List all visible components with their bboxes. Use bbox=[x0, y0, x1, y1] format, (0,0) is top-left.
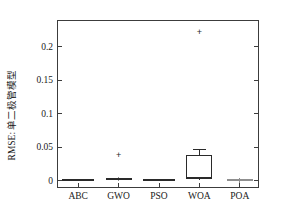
collapsed-box bbox=[143, 179, 175, 181]
plot-area: 00.050.10.150.2 ABCGWOPSOWOAPOA ++ bbox=[57, 20, 259, 188]
x-tick-label: PSO bbox=[150, 191, 167, 201]
y-tick-label: 0.15 bbox=[36, 75, 53, 85]
x-tick-mark bbox=[118, 183, 119, 187]
x-tick-label: POA bbox=[230, 191, 249, 201]
x-tick-mark bbox=[78, 183, 79, 187]
collapsed-box bbox=[227, 179, 253, 180]
y-tick-mark bbox=[58, 46, 62, 47]
y-tick-mark bbox=[58, 147, 62, 148]
y-tick-mark bbox=[58, 80, 62, 81]
whisker-lower bbox=[199, 179, 200, 180]
y-tick-mark-right bbox=[254, 113, 258, 114]
x-tick-label: WOA bbox=[188, 191, 211, 201]
y-tick-mark bbox=[58, 113, 62, 114]
outlier-marker: + bbox=[197, 27, 202, 36]
y-tick-mark-right bbox=[254, 147, 258, 148]
whisker-cap-upper bbox=[193, 149, 206, 150]
y-tick-mark-right bbox=[254, 180, 258, 181]
collapsed-box bbox=[62, 179, 94, 181]
collapsed-box bbox=[106, 178, 132, 180]
x-tick-mark bbox=[159, 183, 160, 187]
y-tick-mark-right bbox=[254, 80, 258, 81]
y-tick-mark-right bbox=[254, 46, 258, 47]
x-tick-mark bbox=[199, 183, 200, 187]
box-iqr bbox=[186, 155, 212, 179]
y-tick-label: 0.1 bbox=[41, 109, 53, 119]
x-tick-label: ABC bbox=[68, 191, 88, 201]
y-tick-label: 0 bbox=[48, 176, 53, 186]
x-tick-label: GWO bbox=[107, 191, 130, 201]
boxplot-figure: RMSE: 单二极管模型 00.050.10.150.2 ABCGWOPSOWO… bbox=[0, 0, 283, 220]
y-tick-label: 0.2 bbox=[41, 42, 53, 52]
x-tick-mark bbox=[239, 183, 240, 187]
y-axis-label: RMSE: 单二极管模型 bbox=[0, 21, 22, 209]
median-line bbox=[186, 177, 212, 179]
outlier-marker: + bbox=[116, 150, 121, 159]
y-tick-label: 0.05 bbox=[36, 142, 53, 152]
